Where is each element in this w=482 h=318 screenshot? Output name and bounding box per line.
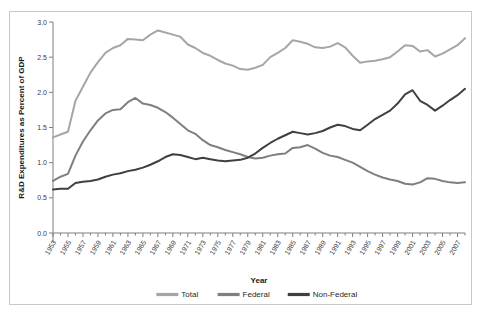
x-tick-label: 2003 [418,239,432,256]
y-tick-label: 2.0 [37,89,47,96]
x-tick-label: 1981 [253,239,267,256]
x-tick-label: 1969 [163,239,177,256]
x-tick-label: 1965 [133,239,147,256]
series-line-non-federal [53,89,465,190]
series-line-total [53,30,465,137]
x-tick-label: 1985 [283,239,297,256]
legend-label-federal: Federal [243,290,270,299]
x-tick-label: 1953 [44,239,58,256]
x-tick-label: 1987 [298,239,312,256]
chart-plot-area: 0.00.51.01.52.02.53.0 195319551957195919… [10,12,473,306]
x-tick-label: 1955 [58,239,72,256]
x-tick-label: 1995 [358,239,372,256]
x-tick-label: 1977 [223,239,237,256]
y-tick-label: 1.0 [37,159,47,166]
x-tick-label: 1997 [373,239,387,256]
chart-figure-border: 0.00.51.01.52.02.53.0 195319551957195919… [9,11,472,305]
x-tick-label: 1973 [193,239,207,256]
y-tick-label: 0.0 [37,230,47,237]
legend-label-non-federal: Non-Federal [313,290,358,299]
x-tick-label: 2005 [433,239,447,256]
x-tick-label: 1963 [118,239,132,256]
x-tick-label: 1989 [313,239,327,256]
x-tick-label: 1991 [328,239,342,256]
x-tick-label: 1967 [148,239,162,256]
x-tick-label: 1957 [73,239,87,256]
x-tick-label: 2007 [448,239,462,256]
data-series-group [53,30,465,189]
chart-legend: TotalFederalNon-Federal [156,290,357,299]
y-tick-label: 0.5 [37,194,47,201]
series-line-federal [53,98,465,185]
x-tick-label: 1975 [208,239,222,256]
y-axis: 0.00.51.01.52.02.53.0 [37,19,53,243]
x-tick-label: 1999 [388,239,402,256]
x-axis-title: Year [251,276,268,285]
x-tick-label: 1983 [268,239,282,256]
y-axis-title: R&D Expenditures as Percent of GDP [17,56,26,199]
legend-label-total: Total [181,290,198,299]
x-tick-label: 1959 [88,239,102,256]
x-tick-label: 1971 [178,239,192,256]
x-axis: 1953195519571959196119631965196719691971… [44,233,465,256]
x-tick-label: 2001 [403,239,417,256]
y-tick-label: 3.0 [37,19,47,26]
x-tick-label: 1979 [238,239,252,256]
x-tick-label: 1993 [343,239,357,256]
rd-expenditures-line-chart: 0.00.51.01.52.02.53.0 195319551957195919… [10,12,473,306]
y-tick-label: 1.5 [37,124,47,131]
y-tick-label: 2.5 [37,54,47,61]
x-tick-label: 1961 [103,239,117,256]
